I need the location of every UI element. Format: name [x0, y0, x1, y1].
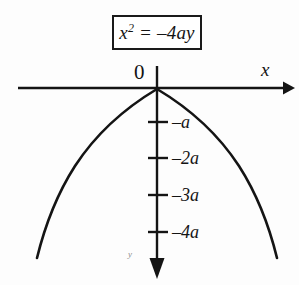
- x-axis-label: x: [261, 60, 269, 79]
- parabola-figure: x2 = –4ay 0 x y –a –2a –3a –4a: [0, 0, 299, 285]
- tick-label-minus-4a: –4a: [172, 223, 199, 241]
- y-axis-arrowhead: [150, 258, 165, 279]
- graph-canvas: [0, 0, 299, 285]
- x-axis-arrowhead: [283, 82, 295, 95]
- tick-label-minus-a: –a: [172, 113, 190, 131]
- tick-label-minus-3a: –3a: [172, 186, 199, 204]
- origin-label: 0: [134, 62, 145, 83]
- y-axis-label: y: [128, 250, 132, 259]
- tick-label-minus-2a: –2a: [172, 149, 199, 167]
